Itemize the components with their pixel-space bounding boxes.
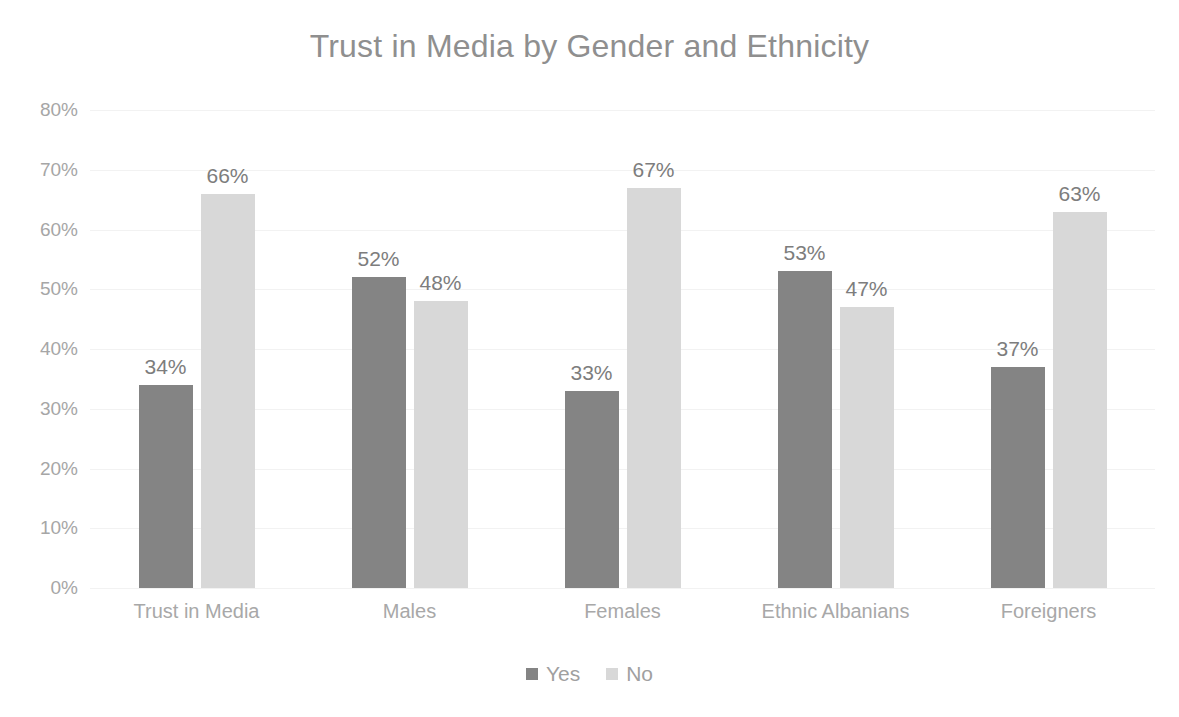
bar-value-label: 53% <box>765 241 845 265</box>
bar-value-label: 67% <box>614 158 694 182</box>
y-axis-tick-label: 80% <box>40 99 78 121</box>
bar-no[interactable] <box>1053 212 1107 588</box>
bar-group: 53%47% <box>778 110 894 588</box>
bar-value-label: 34% <box>126 355 206 379</box>
y-axis: 80%70%60%50%40%30%20%10%0% <box>0 110 78 588</box>
bar-yes[interactable] <box>352 277 406 588</box>
x-axis-tick-label: Foreigners <box>1001 600 1097 623</box>
y-axis-tick-label: 10% <box>40 517 78 539</box>
bar-yes[interactable] <box>565 391 619 588</box>
bar-no[interactable] <box>201 194 255 588</box>
bar-group: 33%67% <box>565 110 681 588</box>
legend-label: Yes <box>546 662 580 686</box>
x-axis-tick-label: Males <box>383 600 436 623</box>
x-axis-tick-label: Females <box>584 600 661 623</box>
bar-group: 37%63% <box>991 110 1107 588</box>
chart-title: Trust in Media by Gender and Ethnicity <box>0 28 1179 65</box>
y-axis-tick-label: 20% <box>40 458 78 480</box>
y-axis-tick-label: 40% <box>40 338 78 360</box>
plot-area: 34%66%52%48%33%67%53%47%37%63% <box>90 110 1155 588</box>
bar-value-label: 33% <box>552 361 632 385</box>
y-axis-tick-label: 70% <box>40 159 78 181</box>
bar-value-label: 47% <box>827 277 907 301</box>
x-axis-tick-label: Trust in Media <box>134 600 260 623</box>
y-axis-tick-label: 0% <box>51 577 78 599</box>
bar-yes[interactable] <box>991 367 1045 588</box>
bar-group: 34%66% <box>139 110 255 588</box>
bar-value-label: 48% <box>401 271 481 295</box>
bar-no[interactable] <box>840 307 894 588</box>
legend-item-no[interactable]: No <box>606 662 653 686</box>
legend-swatch-icon <box>606 668 618 680</box>
bar-no[interactable] <box>627 188 681 588</box>
x-axis-tick-label: Ethnic Albanians <box>762 600 910 623</box>
gridline <box>90 588 1155 589</box>
legend-swatch-icon <box>526 668 538 680</box>
bar-no[interactable] <box>414 301 468 588</box>
y-axis-tick-label: 30% <box>40 398 78 420</box>
y-axis-tick-label: 50% <box>40 278 78 300</box>
legend-label: No <box>626 662 653 686</box>
x-axis: Trust in MediaMalesFemalesEthnic Albania… <box>90 600 1155 640</box>
chart-legend: YesNo <box>0 662 1179 686</box>
bar-value-label: 63% <box>1040 182 1120 206</box>
bar-yes[interactable] <box>778 271 832 588</box>
bar-yes[interactable] <box>139 385 193 588</box>
legend-item-yes[interactable]: Yes <box>526 662 580 686</box>
bar-chart: Trust in Media by Gender and Ethnicity 8… <box>0 0 1179 717</box>
y-axis-tick-label: 60% <box>40 219 78 241</box>
bar-value-label: 66% <box>188 164 268 188</box>
bar-value-label: 37% <box>978 337 1058 361</box>
bar-value-label: 52% <box>339 247 419 271</box>
bar-group: 52%48% <box>352 110 468 588</box>
